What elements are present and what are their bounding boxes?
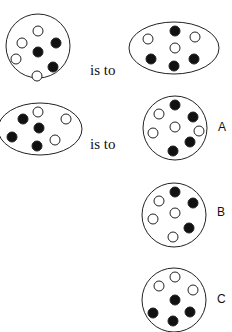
filled-dot	[170, 100, 180, 110]
filled-dot	[170, 26, 180, 36]
filled-dot	[170, 187, 180, 197]
filled-dot	[188, 112, 198, 122]
filled-dot	[185, 307, 195, 317]
figure-B	[142, 183, 206, 247]
filled-dot	[184, 223, 194, 233]
empty-dot	[170, 272, 180, 282]
empty-dot	[154, 196, 164, 206]
is-to-text-2: is to	[90, 136, 115, 153]
empty-dot	[168, 232, 178, 242]
filled-dot	[32, 141, 42, 151]
filled-dot	[188, 198, 198, 208]
figure-C	[142, 268, 206, 332]
figure-A	[143, 96, 207, 160]
is-to-text-1: is to	[90, 62, 115, 79]
figure-q2	[129, 22, 219, 74]
option-label-b: B	[217, 205, 225, 219]
empty-dot	[33, 26, 43, 36]
option-label-c: C	[217, 292, 226, 306]
empty-dot	[154, 281, 164, 291]
figure-q3	[0, 103, 82, 155]
filled-dot	[189, 54, 199, 64]
filled-dot	[48, 62, 58, 72]
analogy-diagram	[0, 0, 232, 332]
figure-q1	[6, 14, 70, 81]
filled-dot	[148, 308, 158, 318]
empty-dot	[11, 54, 21, 64]
empty-dot	[148, 128, 158, 138]
empty-dot	[170, 43, 180, 53]
filled-dot	[169, 61, 179, 71]
filled-dot	[146, 54, 156, 64]
empty-dot	[17, 38, 27, 48]
empty-dot	[154, 109, 164, 119]
empty-dot	[170, 208, 180, 218]
empty-dot	[61, 114, 71, 124]
filled-dot	[168, 146, 178, 156]
option-label-a: A	[218, 120, 226, 134]
filled-dot	[170, 295, 180, 305]
filled-dot	[168, 316, 178, 326]
filled-dot	[18, 114, 28, 124]
filled-dot	[7, 132, 17, 142]
empty-dot	[190, 32, 200, 42]
filled-dot	[185, 137, 195, 147]
empty-dot	[188, 285, 198, 295]
filled-dot	[51, 38, 61, 48]
empty-dot	[143, 34, 153, 44]
empty-dot	[170, 122, 180, 132]
empty-dot	[33, 107, 43, 117]
filled-dot	[34, 123, 44, 133]
empty-dot	[32, 71, 42, 81]
filled-dot	[33, 47, 43, 57]
empty-dot	[194, 126, 204, 136]
empty-dot	[148, 214, 158, 224]
empty-dot	[50, 135, 60, 145]
